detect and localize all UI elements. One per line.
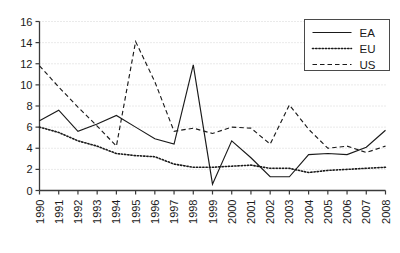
y-tick-label: 14 [20,37,32,49]
x-tick-label: 2003 [283,200,295,224]
y-tick-label: 0 [26,185,32,197]
chart-canvas: 0246810121416 19901991199219931994199519… [0,0,400,253]
x-tick-label: 2002 [264,200,276,224]
x-tick-label: 1995 [130,200,142,224]
y-tick-label: 8 [26,100,32,112]
x-tick-label: 1992 [72,200,84,224]
x-tick-label: 2005 [322,200,334,224]
x-tick-label: 1998 [187,200,199,224]
x-axis-tick-labels: 1990199119921993199419951996199719981999… [34,200,392,224]
y-tick-label: 6 [26,121,32,133]
x-tick-label: 1999 [207,200,219,224]
y-tick-label: 4 [26,142,32,154]
x-tick-label: 1996 [149,200,161,224]
legend-label-eu: EU [360,43,376,55]
y-axis-tick-labels: 0246810121416 [20,16,32,197]
x-tick-label: 2001 [245,200,257,224]
x-tick-label: 2004 [303,200,315,224]
series-line-ea [40,65,386,184]
x-tick-label: 2007 [360,200,372,224]
line-chart: 0246810121416 19901991199219931994199519… [0,0,400,253]
y-tick-label: 12 [20,58,32,70]
x-tick-label: 2000 [226,200,238,224]
y-tick-label: 16 [20,16,32,28]
legend-label-us: US [360,59,376,71]
x-tick-label: 1991 [53,200,65,224]
x-tick-label: 2006 [341,200,353,224]
legend-label-ea: EA [360,27,376,39]
y-tick-label: 10 [20,79,32,91]
x-tick-label: 1990 [34,200,46,224]
x-tick-label: 1994 [110,200,122,224]
x-tick-label: 1993 [91,200,103,224]
legend: EAEUUS [305,20,390,71]
x-tick-label: 1997 [168,200,180,224]
legend-box [305,20,390,71]
y-tick-label: 2 [26,163,32,175]
x-tick-label: 2008 [380,200,392,224]
